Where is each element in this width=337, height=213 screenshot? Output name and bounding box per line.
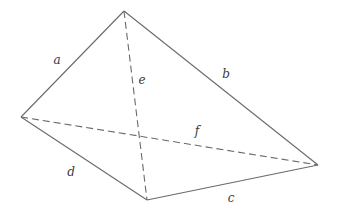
edge-label-b: b bbox=[222, 68, 230, 80]
edge-d bbox=[21, 117, 147, 200]
edge-label-a: a bbox=[53, 54, 60, 66]
edge-label-f: f bbox=[195, 125, 199, 137]
edge-a bbox=[21, 11, 124, 117]
edge-b bbox=[124, 11, 318, 165]
edge-label-c: c bbox=[228, 192, 235, 204]
tetrahedron-diagram: a b c d e f bbox=[0, 0, 337, 213]
edge-e bbox=[124, 11, 147, 200]
edge-label-e: e bbox=[138, 74, 145, 86]
edge-f bbox=[21, 117, 318, 165]
edge-label-d: d bbox=[67, 166, 75, 178]
edges-layer bbox=[0, 0, 337, 213]
